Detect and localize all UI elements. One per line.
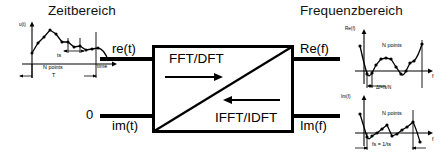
inverse-transform-label: IFFT/IDFT [215, 110, 277, 125]
time-x-axis-label: time [97, 63, 107, 69]
freq-real-x-axis-label: f [432, 73, 434, 79]
freq-resolution-label: Δf=fs/N [376, 85, 391, 90]
fft-block-diagram: Zeitbereich Frequenzbereich [0, 0, 441, 158]
freq-imag-y-arrow [362, 95, 367, 100]
time-waveform [32, 30, 108, 60]
freq-imag-x-axis-label: f [432, 136, 434, 142]
re-t-label: re(t) [112, 41, 136, 56]
time-period-label: T [52, 72, 55, 78]
re-f-output-line [292, 57, 340, 61]
im-t-label: im(t) [112, 118, 138, 133]
forward-transform-label: FFT/DFT [169, 51, 224, 66]
freq-sampling-label: fs = 1/ts [372, 141, 391, 147]
time-ts-label: ts [57, 52, 61, 58]
freq-real-y-arrow [362, 29, 367, 34]
time-points-label: N points [43, 64, 63, 70]
freq-real-points-label: N points [382, 42, 402, 48]
freq-real-y-axis-label: Re(f) [345, 26, 355, 31]
freq-real-svg [352, 24, 441, 96]
heading-time-domain: Zeitbereich [48, 3, 116, 18]
freq-imag-svg [352, 92, 441, 156]
freq-imag-y-axis-label: Im(f) [341, 94, 350, 99]
time-x-arrow [112, 62, 117, 67]
freq-imag-plot [352, 92, 441, 156]
time-y-arrow [30, 22, 35, 27]
heading-frequency-domain: Frequenzbereich [300, 3, 403, 18]
freq-imag-curve [360, 114, 420, 142]
zero-label: 0 [86, 107, 93, 122]
freq-imag-x-arrow [428, 131, 433, 136]
im-f-label: Im(f) [300, 118, 327, 133]
re-t-input-line [100, 57, 154, 61]
freq-real-plot [352, 24, 441, 96]
time-y-axis-label: u(t) [19, 22, 26, 27]
re-f-label: Re(f) [300, 41, 329, 56]
freq-imag-points-label: N points [382, 110, 402, 116]
